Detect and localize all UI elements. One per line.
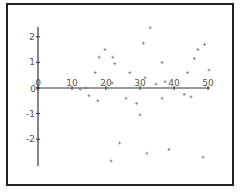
data-point [161,61,164,64]
data-points [79,26,211,162]
data-point [193,57,196,60]
data-point [125,97,128,100]
y-tick-label: -2 [26,134,35,144]
x-tick-label: 30 [134,78,146,88]
data-point [135,102,138,105]
x-tick-label: 40 [168,78,180,88]
scatter-plot: 210-1-201020304050 [0,0,242,192]
data-point [183,93,186,96]
axes: 210-1-201020304050 [26,27,214,166]
data-point [103,48,106,51]
data-point [203,43,206,46]
data-point [98,56,101,59]
data-point [208,69,211,72]
data-point [96,99,99,102]
x-tick-label: 0 [35,78,41,88]
data-point [196,48,199,51]
data-point [84,87,87,90]
data-point [113,62,116,65]
data-point [164,80,167,83]
data-point [154,83,157,86]
data-point [118,142,121,145]
x-tick-label: 10 [66,78,78,88]
data-point [94,71,97,74]
data-point [142,42,145,45]
y-tick-label: 1 [29,57,35,67]
data-point [161,97,164,100]
data-point [110,159,113,162]
data-point [111,56,114,59]
data-point [201,156,204,159]
x-tick-label: 20 [100,78,112,88]
y-tick-label: 2 [29,32,35,42]
data-point [149,26,152,29]
y-tick-label: -1 [26,109,35,119]
data-point [88,94,91,97]
data-point [145,152,148,155]
data-point [186,71,189,74]
data-point [190,95,193,98]
data-point [128,71,131,74]
data-point [139,113,142,116]
data-point [167,148,170,151]
x-tick-label: 50 [202,78,214,88]
